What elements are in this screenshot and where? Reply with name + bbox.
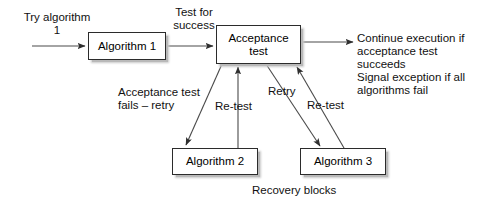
node-algorithm-2-label: Algorithm 2 [186, 155, 244, 168]
label-acceptance-test-fails: Acceptance test fails – retry [118, 86, 218, 112]
label-outcome: Continue execution if acceptance test su… [357, 32, 481, 97]
node-algorithm-3[interactable]: Algorithm 3 [300, 148, 386, 175]
node-acceptance-test-label: Acceptance test [228, 32, 288, 58]
label-try-algorithm-1: Try algorithm 1 [12, 11, 102, 37]
recovery-blocks-diagram: Algorithm 1 Acceptance test Algorithm 2 … [0, 0, 481, 205]
node-algorithm-2[interactable]: Algorithm 2 [172, 148, 258, 175]
node-algorithm-3-label: Algorithm 3 [314, 155, 372, 168]
label-retest-right: Re-test [307, 99, 344, 112]
diagram-caption: Recovery blocks [252, 184, 336, 197]
label-retest-left: Re-test [215, 100, 252, 113]
label-retry-right: Retry [268, 85, 295, 98]
node-algorithm-1-label: Algorithm 1 [98, 40, 156, 53]
label-test-for-success: Test for success [159, 6, 229, 32]
